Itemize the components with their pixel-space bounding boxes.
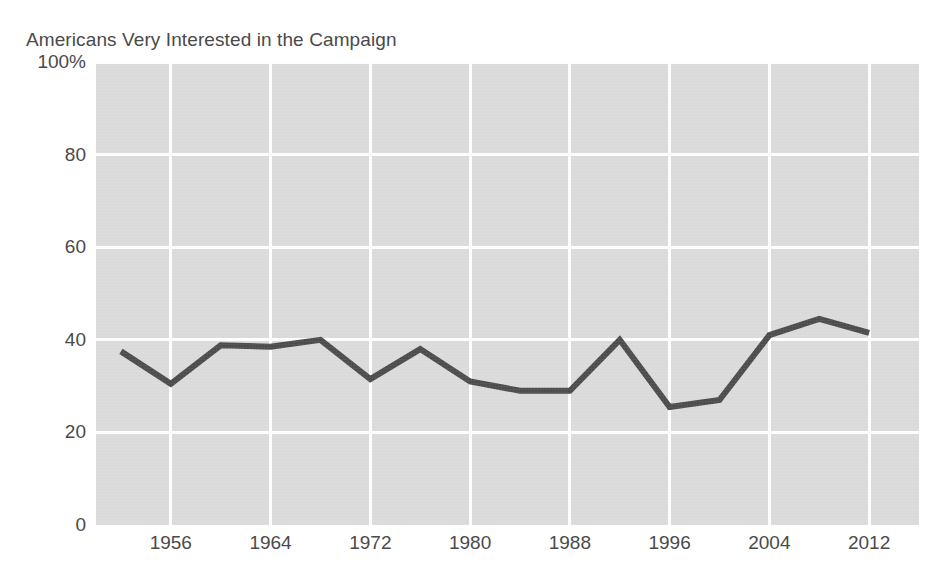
y-tick-label: 0 <box>2 514 86 536</box>
x-tick-label: 1972 <box>349 532 391 554</box>
x-tick-label: 2012 <box>848 532 890 554</box>
y-tick-label: 100% <box>2 51 86 73</box>
chart-figure: Americans Very Interested in the Campaig… <box>0 0 944 586</box>
gridline-vertical <box>568 62 571 525</box>
gridline-vertical <box>868 62 871 525</box>
gridline-vertical <box>369 62 372 525</box>
plot-area <box>96 62 919 525</box>
y-axis: 020406080100% <box>0 62 86 525</box>
gridline-horizontal <box>96 246 919 249</box>
gridline-vertical <box>768 62 771 525</box>
y-tick-label: 20 <box>2 421 86 443</box>
gridline-horizontal <box>96 153 919 156</box>
data-line-series <box>96 62 919 525</box>
x-tick-label: 1988 <box>549 532 591 554</box>
gridline-horizontal <box>96 431 919 434</box>
paper-texture-overlay <box>96 62 919 525</box>
gridline-horizontal <box>96 338 919 341</box>
x-tick-label: 1980 <box>449 532 491 554</box>
gridline-vertical <box>469 62 472 525</box>
y-tick-label: 80 <box>2 144 86 166</box>
x-axis: 19561964197219801988199620042012 <box>96 528 919 568</box>
x-tick-label: 1996 <box>648 532 690 554</box>
gridline-horizontal <box>96 61 919 64</box>
y-tick-label: 60 <box>2 236 86 258</box>
gridline-vertical <box>169 62 172 525</box>
chart-title: Americans Very Interested in the Campaig… <box>26 29 397 51</box>
x-tick-label: 1964 <box>249 532 291 554</box>
gridline-vertical <box>668 62 671 525</box>
x-tick-label: 1956 <box>150 532 192 554</box>
gridline-vertical <box>269 62 272 525</box>
y-tick-label: 40 <box>2 329 86 351</box>
x-tick-label: 2004 <box>748 532 790 554</box>
